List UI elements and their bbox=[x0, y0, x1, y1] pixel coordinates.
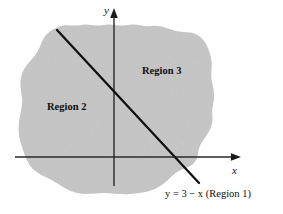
region-2-label: Region 2 bbox=[47, 102, 86, 113]
x-axis-label: x bbox=[232, 165, 237, 176]
diagram-canvas bbox=[0, 0, 283, 214]
boundary-line-caption: y = 3 − x (Region 1) bbox=[165, 189, 251, 200]
y-axis-label: y bbox=[104, 5, 109, 16]
math-region-diagram: Region 3 Region 2 y = 3 − x (Region 1) y… bbox=[0, 0, 283, 214]
region-3-label: Region 3 bbox=[142, 66, 181, 77]
